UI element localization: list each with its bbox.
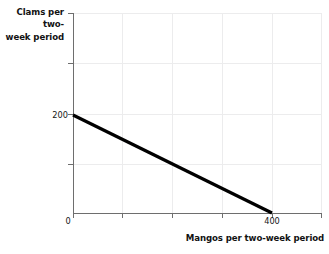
y-tick-label-200: 200 bbox=[48, 110, 68, 120]
y-axis-ticks bbox=[68, 14, 73, 165]
y-axis-title-line2: week period bbox=[6, 32, 64, 42]
x-axis-title: Mangos per two-week period bbox=[184, 233, 326, 243]
chart-figure: Clams per two- week period Mangos per tw… bbox=[0, 0, 329, 254]
x-tick-label-0: 0 bbox=[63, 216, 73, 226]
y-axis-title: Clams per two- week period bbox=[2, 6, 64, 43]
gridlines bbox=[73, 13, 322, 213]
axes bbox=[73, 13, 322, 214]
y-axis-title-line1: Clams per two- bbox=[17, 7, 64, 29]
x-tick-label-400: 400 bbox=[260, 216, 284, 226]
